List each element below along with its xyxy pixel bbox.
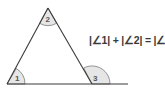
triangle-right-side [48, 8, 92, 84]
triangle-left-side [7, 8, 48, 84]
angle-1-label: 1 [15, 74, 20, 83]
angle-3-label: 3 [93, 74, 98, 83]
triangle-exterior-angle-diagram: 1 2 3 [0, 0, 165, 93]
angle-2-label: 2 [46, 15, 51, 24]
angle-sum-formula: |∠1| + |∠2| = |∠3| [89, 34, 165, 46]
